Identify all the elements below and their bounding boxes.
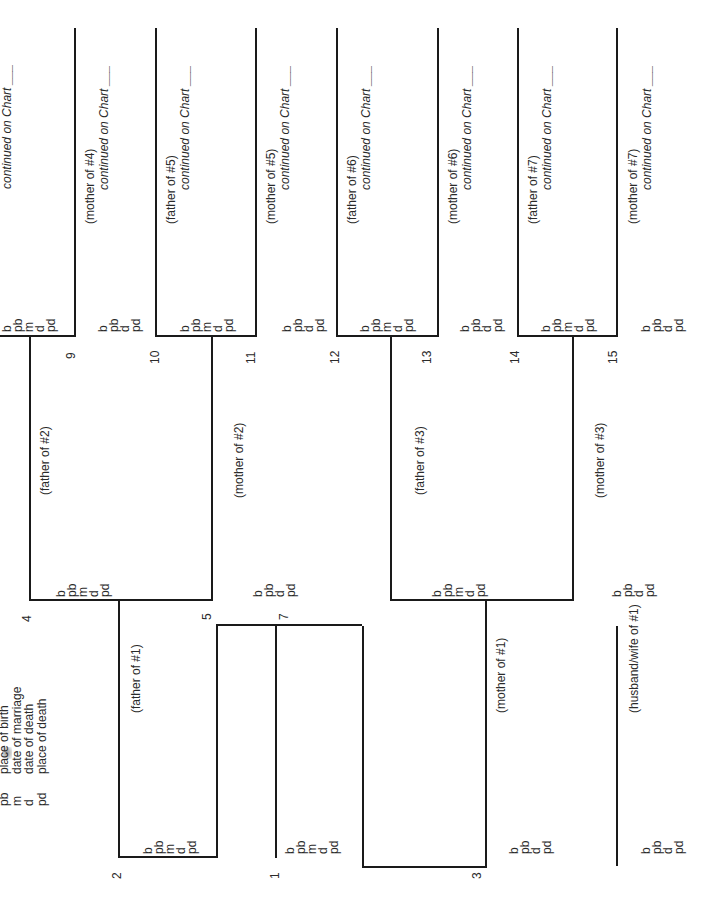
spouse-fields: bpbdpd (641, 841, 685, 854)
person-8-continued: continued on Chart ___ (0, 64, 14, 189)
legend-row: pdplace of death (36, 687, 49, 806)
person-7-fields: bpbdpd (612, 584, 656, 597)
legend-meaning: place of death (36, 699, 49, 774)
field-pd: pd (493, 319, 504, 332)
connector-2-3-top (216, 626, 218, 858)
person-14-line (517, 28, 519, 337)
continued-label: continued on Chart ___ (640, 65, 654, 190)
person-11-fields: bpbdpd (282, 319, 326, 332)
legend-row: pbplace of birth (0, 687, 11, 806)
field-pd: pd (674, 319, 685, 332)
connector-2 (118, 856, 216, 858)
person-13-block: (mother of #6)continued on Chart ___ (446, 65, 474, 224)
person-10-role: (father of #5) (164, 65, 178, 224)
continued-label: continued on Chart ___ (359, 65, 373, 190)
legend-abbr: pb (0, 774, 11, 806)
person-5-role: (mother of #2) (232, 423, 246, 498)
person-number-5: 5 (200, 613, 214, 620)
person-4-line (29, 337, 31, 601)
person-9-fields: bpbdpd (98, 319, 142, 332)
person-2-role: (father of #1) (129, 644, 143, 713)
person-11-line (255, 28, 257, 337)
person-7-line (572, 337, 574, 601)
legend: pbplace of birth mdate of marriage ddate… (0, 687, 48, 806)
legend-meaning: place of birth (0, 705, 11, 774)
person-3-line (485, 601, 487, 868)
connector-14-15 (517, 335, 616, 337)
field-pd: pd (100, 584, 111, 597)
connector-6-7 (390, 599, 572, 601)
person-13-fields: bpbdpd (460, 319, 504, 332)
person-14-fields: bpbmdpd (541, 319, 596, 332)
person-5-fields: bpbdpd (253, 584, 297, 597)
person-5-line (211, 337, 213, 601)
person-15-role: (mother of #7) (626, 65, 640, 224)
person-1-line (275, 626, 277, 858)
person-10-fields: bpbmdpd (180, 319, 235, 332)
person-9-line (74, 28, 76, 337)
person-4-fields: bpbmdpd (56, 584, 111, 597)
field-pd: pd (329, 841, 340, 854)
person-number-10: 10 (148, 351, 162, 364)
connector-3 (362, 866, 485, 868)
person-3-role: (mother of #1) (494, 638, 508, 713)
person-1-fields: bpbmdpd (285, 841, 340, 854)
person-2-line (118, 601, 120, 858)
person-3-fields: bpbdpd (509, 841, 553, 854)
person-10-line (155, 28, 157, 337)
person-12-fields: bpbmdpd (360, 319, 415, 332)
person-15-fields: bpbdpd (641, 319, 685, 332)
spouse-role: (husband/wife of #1) (627, 604, 641, 713)
legend-row: ddate of death (23, 687, 36, 806)
connector-3-down (362, 626, 364, 868)
continued-label: continued on Chart ___ (278, 65, 292, 190)
person-number-1: 1 (268, 872, 282, 879)
person-8-fields: bpbmdpd (2, 319, 57, 332)
person-15-block: (mother of #7)continued on Chart ___ (626, 65, 654, 224)
person-number-4: 4 (20, 615, 34, 622)
person-12-line (336, 28, 338, 337)
person-number-2: 2 (110, 872, 124, 879)
continued-label: continued on Chart ___ (178, 65, 192, 190)
person-9-block: (mother of #4)continued on Chart ___ (83, 65, 111, 224)
person-number-13: 13 (420, 351, 434, 364)
legend-abbr: d (23, 774, 36, 806)
person-7-role: (mother of #3) (593, 423, 607, 498)
continued-label: continued on Chart ___ (97, 65, 111, 190)
person-13-role: (mother of #6) (446, 65, 460, 224)
person-9-role: (mother of #4) (83, 65, 97, 224)
person-12-role: (father of #6) (345, 65, 359, 224)
field-pd: pd (131, 319, 142, 332)
field-pd: pd (286, 584, 297, 597)
field-pd: pd (315, 319, 326, 332)
pedigree-chart-page: pbplace of birth mdate of marriage ddate… (0, 0, 723, 909)
spouse-line (616, 626, 618, 866)
field-pd: pd (542, 841, 553, 854)
person-2-fields: bpbmdpd (143, 841, 198, 854)
person-4-role: (father of #2) (38, 426, 52, 495)
connector-8-9 (0, 335, 74, 337)
person-number-11: 11 (244, 352, 258, 364)
field-pd: pd (46, 319, 57, 332)
person-number-9: 9 (64, 352, 78, 359)
connector-12-13 (336, 335, 437, 337)
person-6-fields: bpbmdpd (432, 584, 487, 597)
person-14-role: (father of #7) (526, 65, 540, 224)
person-12-block: (father of #6)continued on Chart ___ (345, 65, 373, 224)
continued-label: continued on Chart ___ (0, 64, 14, 189)
person-14-block: (father of #7)continued on Chart ___ (526, 65, 554, 224)
field-pd: pd (476, 584, 487, 597)
person-6-role: (father of #3) (413, 426, 427, 495)
continued-label: continued on Chart ___ (460, 65, 474, 190)
person-11-role: (mother of #5) (264, 65, 278, 224)
field-pd: pd (187, 841, 198, 854)
person-number-3: 3 (470, 872, 484, 879)
connector-1-3 (216, 624, 362, 626)
person-15-line (616, 28, 618, 337)
legend-meaning: date of death (23, 704, 36, 774)
connector-4-5 (29, 599, 211, 601)
connector-10-11 (155, 335, 255, 337)
field-pd: pd (585, 319, 596, 332)
field-pd: pd (224, 319, 235, 332)
field-pd: pd (674, 841, 685, 854)
